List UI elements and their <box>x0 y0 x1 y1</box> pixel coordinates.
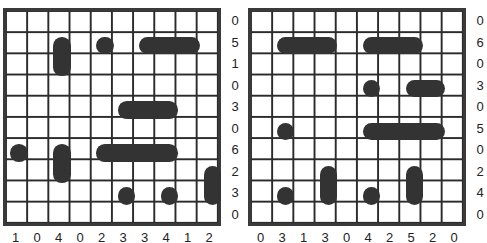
row-clue: 0 <box>225 121 245 136</box>
row-clue: 0 <box>470 56 487 71</box>
column-clue: 4 <box>48 230 69 243</box>
ship-segment <box>53 144 71 183</box>
row-clue: 0 <box>225 13 245 28</box>
row-clue: 0 <box>470 207 487 222</box>
ship-segment <box>320 166 338 205</box>
row-clue: 0 <box>225 78 245 93</box>
row-clue: 0 <box>225 207 245 222</box>
right-puzzle: 06030502400313042520 <box>248 8 487 243</box>
column-clue: 3 <box>113 230 134 243</box>
row-clue: 3 <box>470 78 487 93</box>
column-clue: 1 <box>177 230 198 243</box>
left-puzzle: 05103062301040233412 <box>3 8 243 243</box>
row-clue: 0 <box>470 99 487 114</box>
submarine-segment <box>10 144 28 162</box>
submarine-segment <box>363 80 381 98</box>
column-clue: 0 <box>444 230 465 243</box>
ship-segment <box>139 37 200 55</box>
row-clue: 4 <box>470 185 487 200</box>
column-clue: 0 <box>70 230 91 243</box>
row-clue: 0 <box>470 13 487 28</box>
column-clue: 3 <box>134 230 155 243</box>
row-clue: 3 <box>225 99 245 114</box>
submarine-segment <box>363 187 381 205</box>
row-clue: 3 <box>225 185 245 200</box>
row-clue: 5 <box>470 121 487 136</box>
column-clue: 0 <box>27 230 48 243</box>
row-clue: 2 <box>225 164 245 179</box>
ship-segment <box>406 80 445 98</box>
row-clue: 2 <box>470 164 487 179</box>
row-clue: 5 <box>225 35 245 50</box>
column-clue: 3 <box>272 230 293 243</box>
submarine-segment <box>96 37 114 55</box>
row-clue: 1 <box>225 56 245 71</box>
submarine-segment <box>277 123 295 141</box>
ship-segment <box>118 101 179 119</box>
ship-segment <box>406 166 424 205</box>
column-clue: 1 <box>293 230 314 243</box>
ship-segment <box>53 37 71 76</box>
row-clue: 6 <box>470 35 487 50</box>
ship-segment <box>363 37 424 55</box>
submarine-segment <box>277 187 295 205</box>
battleship-grid[interactable] <box>248 8 466 226</box>
column-clue: 2 <box>422 230 443 243</box>
column-clue: 4 <box>156 230 177 243</box>
column-clue: 1 <box>5 230 26 243</box>
ship-segment <box>363 123 445 141</box>
column-clue: 5 <box>401 230 422 243</box>
column-clue: 3 <box>315 230 336 243</box>
battleship-grid[interactable] <box>3 8 221 226</box>
ship-segment <box>204 166 222 205</box>
submarine-segment <box>161 187 179 205</box>
row-clue: 0 <box>470 142 487 157</box>
column-clue: 2 <box>199 230 220 243</box>
column-clue: 4 <box>358 230 379 243</box>
ship-segment <box>96 144 178 162</box>
column-clue: 2 <box>379 230 400 243</box>
ship-segment <box>277 37 338 55</box>
submarine-segment <box>118 187 136 205</box>
column-clue: 0 <box>250 230 271 243</box>
column-clue: 2 <box>91 230 112 243</box>
row-clue: 6 <box>225 142 245 157</box>
column-clue: 0 <box>336 230 357 243</box>
